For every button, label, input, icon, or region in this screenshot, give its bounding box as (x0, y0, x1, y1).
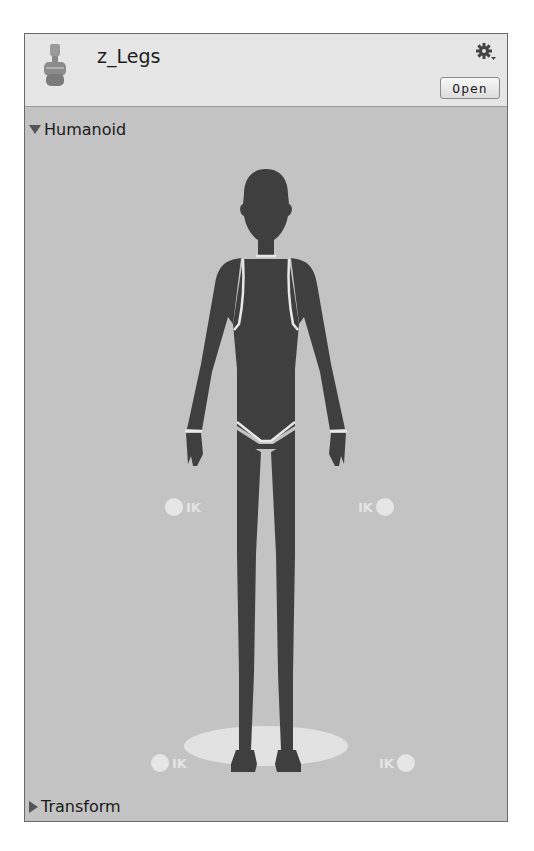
ik-dot-icon (165, 498, 183, 516)
ground-shadow (184, 726, 348, 766)
right-foot-ik-toggle[interactable]: IK (379, 754, 415, 772)
left-hand (186, 433, 203, 466)
avatar-body-figure[interactable] (25, 34, 509, 823)
ik-dot-icon (376, 498, 394, 516)
left-leg (237, 439, 261, 750)
transform-foldout[interactable]: Transform (29, 797, 121, 816)
transform-label: Transform (41, 797, 121, 816)
right-hand-ik-toggle[interactable]: IK (358, 498, 394, 516)
head (240, 169, 292, 256)
left-arm (187, 258, 241, 430)
inspector-panel: z_Legs Open Humanoid (24, 33, 508, 822)
right-leg (271, 439, 295, 750)
right-hand (329, 433, 346, 466)
left-foot-ik-toggle[interactable]: IK (151, 754, 187, 772)
left-hand-ik-toggle[interactable]: IK (165, 498, 201, 516)
right-arm (291, 258, 345, 430)
ik-dot-icon (397, 754, 415, 772)
ik-dot-icon (151, 754, 169, 772)
collapsed-arrow-icon (29, 801, 38, 813)
left-foot (231, 750, 257, 772)
right-foot (275, 750, 301, 772)
